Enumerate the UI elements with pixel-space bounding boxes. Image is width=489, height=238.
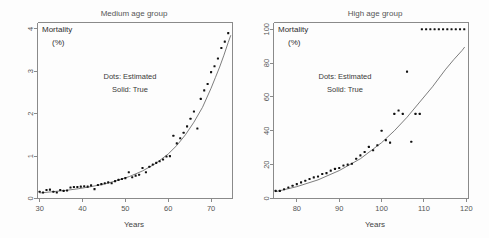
data-point-dot <box>93 188 95 190</box>
x-tick-label: 40 <box>78 204 86 213</box>
data-point-dot <box>66 189 68 191</box>
annotation-dots-medium: Dots: Estimated <box>104 72 157 81</box>
data-point-dot <box>380 130 382 132</box>
x-axis-medium: 3040506070 <box>35 199 215 213</box>
data-point-dot <box>325 172 327 174</box>
data-point-dot <box>372 149 374 151</box>
data-point-dot <box>203 89 205 91</box>
data-point-dot <box>283 188 285 190</box>
x-tick-label: 110 <box>418 204 430 213</box>
y-tick-label: 3 <box>26 69 35 73</box>
data-point-dot <box>162 158 164 160</box>
data-point-dot <box>429 28 431 30</box>
data-point-dot <box>104 182 106 184</box>
y-tick-label: 100 <box>262 23 271 36</box>
annotation-solid-medium: Solid: True <box>112 85 148 94</box>
data-point-dot <box>131 176 133 178</box>
estimated-dots-high <box>274 28 465 192</box>
data-point-dot <box>138 174 140 176</box>
data-point-dot <box>418 113 420 115</box>
ylabel-line2-high: (%) <box>288 38 301 47</box>
data-point-dot <box>59 189 61 191</box>
data-point-dot <box>176 142 178 144</box>
data-point-dot <box>63 190 65 192</box>
panel-title-medium: Medium age group <box>101 9 168 18</box>
data-point-dot <box>446 28 448 30</box>
data-point-dot <box>169 155 171 157</box>
y-tick-label: 40 <box>262 127 271 135</box>
data-point-dot <box>213 65 215 67</box>
data-point-dot <box>329 170 331 172</box>
data-point-dot <box>179 137 181 139</box>
data-point-dot <box>425 28 427 30</box>
data-point-dot <box>159 160 161 162</box>
data-point-dot <box>338 167 340 169</box>
high-age-group-svg: High age group 020406080100 809010011012… <box>245 0 489 238</box>
x-tick-label: 30 <box>35 204 43 213</box>
data-point-dot <box>114 180 116 182</box>
y-tick-label: 0 <box>262 196 271 200</box>
xlabel-medium: Years <box>124 220 144 229</box>
x-tick-label: 120 <box>460 204 473 213</box>
data-point-dot <box>384 139 386 141</box>
data-point-dot <box>333 168 335 170</box>
data-point-dot <box>389 142 391 144</box>
data-point-dot <box>207 83 209 85</box>
data-point-dot <box>304 180 306 182</box>
panel-title-high: High age group <box>347 9 402 18</box>
data-point-dot <box>186 125 188 127</box>
data-point-dot <box>87 186 89 188</box>
data-point-dot <box>217 58 219 60</box>
data-point-dot <box>52 191 54 193</box>
data-point-dot <box>308 178 310 180</box>
ylabel-line2-medium: (%) <box>52 38 65 47</box>
data-point-dot <box>196 127 198 129</box>
data-point-dot <box>350 163 352 165</box>
y-tick-label: 20 <box>262 160 271 168</box>
data-point-dot <box>39 191 41 193</box>
data-point-dot <box>420 28 422 30</box>
y-tick-label: 60 <box>262 93 271 101</box>
data-point-dot <box>442 28 444 30</box>
xlabel-high: Years <box>364 220 384 229</box>
data-point-dot <box>437 28 439 30</box>
data-point-dot <box>124 177 126 179</box>
data-point-dot <box>274 190 276 192</box>
y-tick-label: 1 <box>26 154 35 158</box>
annotation-solid-high: Solid: True <box>327 85 363 94</box>
data-point-dot <box>141 167 143 169</box>
true-curve-high <box>275 47 464 192</box>
plot-frame-high <box>273 23 468 199</box>
y-tick-label: 0 <box>26 196 35 200</box>
y-tick-label: 4 <box>26 27 35 31</box>
figure-panel-pair: Medium age group 01234 3040506070 Mortal… <box>0 0 489 238</box>
data-point-dot <box>316 175 318 177</box>
data-point-dot <box>321 173 323 175</box>
data-point-dot <box>397 109 399 111</box>
y-tick-label: 80 <box>262 59 271 67</box>
x-axis-high: 8090100110120 <box>292 199 472 213</box>
x-tick-label: 60 <box>164 204 172 213</box>
data-point-dot <box>450 28 452 30</box>
data-point-dot <box>49 189 51 191</box>
data-point-dot <box>463 28 465 30</box>
data-point-dot <box>300 181 302 183</box>
chart-panel-medium-age-group: Medium age group 01234 3040506070 Mortal… <box>0 0 245 238</box>
data-point-dot <box>107 181 109 183</box>
data-point-dot <box>111 182 113 184</box>
x-tick-label: 100 <box>375 204 388 213</box>
data-point-dot <box>76 186 78 188</box>
y-axis-medium: 01234 <box>26 27 38 201</box>
medium-age-group-svg: Medium age group 01234 3040506070 Mortal… <box>0 0 245 238</box>
true-curve-path <box>40 35 231 193</box>
data-point-dot <box>278 190 280 192</box>
data-point-dot <box>69 186 71 188</box>
data-point-dot <box>312 176 314 178</box>
x-tick-label: 70 <box>207 204 215 213</box>
data-point-dot <box>128 171 130 173</box>
data-point-dot <box>287 186 289 188</box>
data-point-dot <box>172 135 174 137</box>
data-point-dot <box>97 184 99 186</box>
data-point-dot <box>73 186 75 188</box>
data-point-dot <box>458 28 460 30</box>
